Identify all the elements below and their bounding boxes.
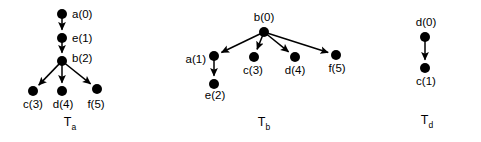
tree-node-label: b(0): [254, 11, 275, 23]
tree-node: [28, 86, 38, 96]
tree-node: [209, 51, 219, 61]
tree-node-label: c(3): [23, 98, 43, 110]
tree-node-label: f(5): [87, 98, 104, 110]
tree-node-label: d(4): [285, 64, 306, 76]
tree-a: a(0)e(1)b(2)c(3)d(4)f(5)Ta: [23, 8, 105, 132]
tree-node: [331, 50, 341, 60]
tree-node: [57, 56, 67, 66]
tree-d: d(0)c(1)Td: [416, 16, 437, 130]
tree-node-label: c(3): [243, 64, 263, 76]
tree-node: [420, 63, 430, 73]
tree-node-label: c(1): [416, 75, 436, 87]
tree-node: [259, 27, 269, 37]
tree-edge: [257, 36, 262, 50]
tree-figure-canvas: a(0)e(1)b(2)c(3)d(4)f(5)Tab(0)a(1)e(2)c(…: [0, 0, 481, 142]
tree-node-label: a(0): [72, 8, 93, 20]
tree-node: [209, 79, 219, 89]
tree-node-label: f(5): [328, 62, 345, 74]
tree-node-label: e(1): [72, 32, 93, 44]
tree-node-label: d(0): [416, 16, 437, 28]
tree-node: [290, 52, 300, 62]
tree-node-label: d(4): [53, 98, 74, 110]
tree-node-label: e(2): [205, 89, 226, 101]
tree-edge: [65, 63, 90, 83]
tree-node: [92, 84, 102, 94]
tree-node: [57, 33, 67, 43]
tree-node-label: a(1): [186, 53, 207, 65]
tree-edge: [39, 64, 60, 85]
tree-caption: Td: [421, 113, 434, 130]
tree-node: [57, 9, 67, 19]
tree-edge: [221, 34, 260, 53]
tree-node: [57, 86, 67, 96]
tree-caption: Tb: [258, 115, 271, 132]
tree-b: b(0)a(1)e(2)c(3)d(4)f(5)Tb: [186, 11, 346, 132]
tree-node: [420, 32, 430, 42]
tree-node-label: b(2): [72, 52, 93, 64]
tree-figure: a(0)e(1)b(2)c(3)d(4)f(5)Tab(0)a(1)e(2)c(…: [0, 0, 481, 142]
tree-node: [249, 52, 259, 62]
tree-caption: Ta: [64, 115, 77, 132]
